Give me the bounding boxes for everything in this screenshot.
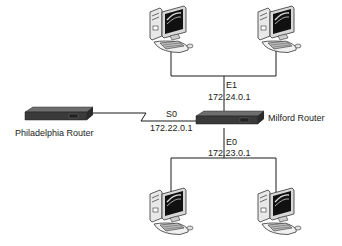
milford-router-icon <box>196 111 264 124</box>
milford-router-label: Milford Router <box>268 113 325 123</box>
pc-top-right-icon <box>258 6 301 53</box>
pc-top-left-icon <box>150 6 193 53</box>
s0-ip-label: 172.22.0.1 <box>150 123 193 133</box>
serial-link <box>92 113 197 121</box>
e1-ip-label: 172.24.0.1 <box>208 92 251 102</box>
s0-interface-label: S0 <box>166 109 177 119</box>
e0-ip-label: 172.23.0.1 <box>208 148 251 158</box>
e1-interface-label: E1 <box>226 80 237 90</box>
pc-bottom-right-icon <box>258 188 301 235</box>
pc-bottom-left-icon <box>150 188 193 235</box>
philadelphia-router-label: Philadelphia Router <box>15 128 94 138</box>
e0-interface-label: E0 <box>226 137 237 147</box>
philadelphia-router-icon <box>25 107 93 120</box>
